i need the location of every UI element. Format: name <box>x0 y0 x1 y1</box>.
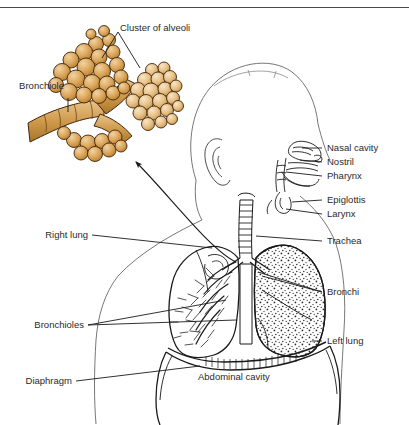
trachea-cartilage-rings <box>238 205 253 253</box>
alveoli-group-right <box>126 62 184 131</box>
label-bronchiole: Bronchiole <box>8 80 64 91</box>
label-nasal-cavity: Nasal cavity <box>327 142 378 153</box>
ear-outline <box>205 139 230 185</box>
label-larynx: Larynx <box>327 208 356 219</box>
label-right-lung: Right lung <box>8 229 88 240</box>
label-trachea: Trachea <box>327 235 362 246</box>
label-nostril: Nostril <box>327 156 354 167</box>
alveoli-group-upper-left <box>49 26 131 104</box>
label-cluster-of-alveoli: Cluster of alveoli <box>120 22 190 33</box>
label-bronchioles: Bronchioles <box>4 319 84 330</box>
label-left-lung: Left lung <box>327 335 363 346</box>
label-pharynx: Pharynx <box>327 170 362 181</box>
left-lung <box>255 245 326 357</box>
upper-airway-detail <box>267 141 322 214</box>
label-diaphragm: Diaphragm <box>4 375 72 386</box>
label-bronchi: Bronchi <box>327 286 359 297</box>
alveoli-group-lower-left <box>58 127 128 162</box>
label-epiglottis: Epiglottis <box>327 194 366 205</box>
label-abdominal-cavity: Abdominal cavity <box>198 371 270 382</box>
diaphragm <box>156 342 340 425</box>
skull-contour <box>214 70 288 86</box>
mediastinum <box>240 264 252 344</box>
alveoli-cluster <box>28 26 184 162</box>
respiratory-system-figure: Cluster of alveoli Bronchiole Nasal cavi… <box>0 0 409 425</box>
larynx-top <box>238 193 255 200</box>
